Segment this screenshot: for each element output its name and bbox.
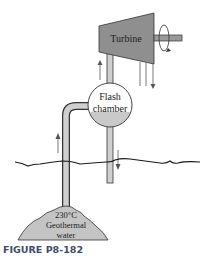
- exhaust-down-arrow-icon: [151, 84, 156, 89]
- geothermal-label-line3: water: [57, 230, 76, 240]
- supply-up-arrow-icon: [56, 133, 61, 153]
- turbine-exhaust-lines: [140, 62, 156, 89]
- turbine-shaft: [154, 35, 182, 41]
- geothermal-supply-pipe: [66, 106, 92, 208]
- figure-caption: FIGURE P8-182: [3, 244, 83, 255]
- flash-chamber-label-line1: Flash: [99, 91, 121, 102]
- turbine-label: Turbine: [110, 33, 142, 44]
- steam-up-arrow-icon: [98, 60, 103, 80]
- geothermal-source: 230°C Geothermal water: [18, 206, 108, 240]
- geothermal-label-line2: Geothermal: [46, 220, 87, 230]
- geothermal-temperature-label: 230°C: [55, 210, 77, 220]
- flash-chamber-label-line2: chamber: [93, 103, 128, 114]
- geothermal-flash-diagram: Flash chamber Turbine 230°: [0, 0, 209, 258]
- reinjection-pipe: [107, 125, 113, 183]
- flash-chamber: Flash chamber: [86, 83, 134, 132]
